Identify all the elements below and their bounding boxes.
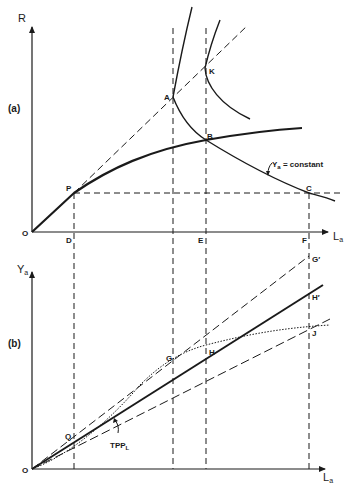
revenue-curve [32,128,302,232]
economics-diagram: R (a) O P A K B C D E F La Ya = constant… [0,0,351,491]
point-g-prime-label: G′ [312,255,320,264]
panel-a-label: (a) [8,103,20,114]
panel-b-label: (b) [8,338,21,349]
panel-a-x-axis-label: La [333,230,343,243]
panel-a-origin-label: O [22,229,28,238]
panel-b-x-axis-label: La [323,471,333,484]
point-e-label: E [198,236,204,245]
point-f-label: F [302,236,307,245]
point-h-label: H [209,348,215,357]
point-a-label: A [164,93,170,102]
point-q-label: Q [65,432,71,441]
tpp-curve [32,325,330,469]
isoquant-lower [173,7,335,201]
annotation-arrowhead-tpp-icon [113,418,118,423]
point-h-prime-label: H′ [312,293,320,302]
panel-b-origin-label: O [22,466,28,475]
panel-b-y-axis-label: Ya [17,263,28,276]
ray-o-q-h-hprime [32,285,323,469]
point-d-label: D [66,236,72,245]
point-k-label: K [209,67,215,76]
isoquant-annotation: Ya = constant [272,160,323,170]
panel-a-y-axis-label: R [18,12,26,24]
point-j-label: J [312,329,316,338]
point-b-label: B [207,132,213,141]
panel-b: Ya (b) O Q G H G′ H′ J TPPL La [8,255,333,484]
tpp-annotation: TPPL [110,441,130,451]
point-p-label: P [66,184,72,193]
point-c-label: C [306,184,312,193]
ray-o-j [32,319,330,469]
point-g-label: G [166,354,172,363]
panel-a: R (a) O P A K B C D E F La Ya = constant [8,7,343,469]
ray-p-a-k [74,25,248,193]
